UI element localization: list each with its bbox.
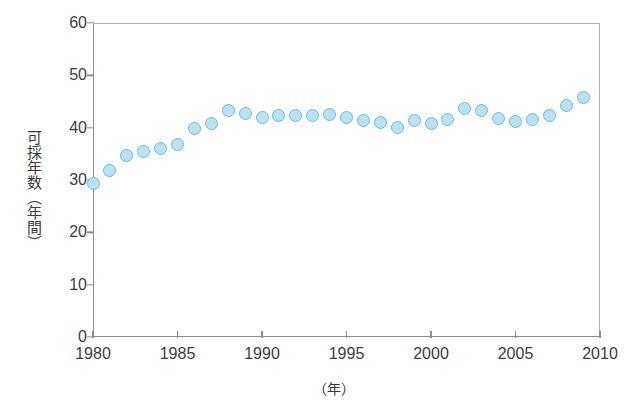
y-axis-title-text: 可採年数（年間） bbox=[27, 130, 42, 250]
x-tick-label: 2005 bbox=[486, 345, 546, 363]
x-tick-mark bbox=[599, 331, 600, 338]
y-tick-label: 50 bbox=[43, 66, 87, 84]
y-tick-mark bbox=[87, 284, 94, 285]
data-point bbox=[391, 121, 404, 134]
data-point bbox=[340, 111, 353, 124]
x-axis-title: （年） bbox=[0, 378, 641, 398]
y-tick-label: 60 bbox=[43, 14, 87, 32]
y-tick-mark bbox=[87, 127, 94, 128]
data-point bbox=[560, 99, 573, 112]
x-tick-mark bbox=[430, 331, 431, 338]
chart-figure: 可採年数（年間） 0102030405060 19801985199019952… bbox=[0, 0, 641, 417]
data-point bbox=[577, 91, 590, 104]
plot-area bbox=[93, 23, 600, 337]
y-tick-mark bbox=[87, 22, 94, 23]
data-point bbox=[408, 114, 421, 127]
x-tick-label: 1980 bbox=[63, 345, 123, 363]
data-point bbox=[171, 138, 184, 151]
x-tick-label: 1985 bbox=[148, 345, 208, 363]
data-point bbox=[87, 177, 100, 190]
data-point bbox=[509, 115, 522, 128]
y-tick-mark bbox=[87, 232, 94, 233]
x-tick-label: 1990 bbox=[232, 345, 292, 363]
data-point bbox=[272, 109, 285, 122]
x-axis-title-text: （年） bbox=[287, 381, 355, 397]
data-point bbox=[475, 104, 488, 117]
data-point bbox=[137, 145, 150, 158]
y-tick-label: 40 bbox=[43, 119, 87, 137]
x-tick-mark bbox=[177, 331, 178, 338]
x-tick-label: 2000 bbox=[401, 345, 461, 363]
data-point bbox=[239, 107, 252, 120]
y-tick-label: 0 bbox=[43, 328, 87, 346]
x-tick-mark bbox=[92, 331, 93, 338]
data-point bbox=[374, 116, 387, 129]
data-point bbox=[205, 117, 218, 130]
y-tick-label: 20 bbox=[43, 223, 87, 241]
data-point bbox=[357, 114, 370, 127]
y-tick-mark bbox=[87, 75, 94, 76]
data-point bbox=[306, 109, 319, 122]
x-tick-mark bbox=[261, 331, 262, 338]
y-tick-label: 30 bbox=[43, 171, 87, 189]
x-tick-label: 2010 bbox=[570, 345, 630, 363]
data-point bbox=[425, 117, 438, 130]
data-point bbox=[256, 111, 269, 124]
data-point bbox=[526, 113, 539, 126]
x-tick-label: 1995 bbox=[317, 345, 377, 363]
x-tick-mark bbox=[515, 331, 516, 338]
x-tick-mark bbox=[346, 331, 347, 338]
y-tick-label: 10 bbox=[43, 276, 87, 294]
data-point bbox=[543, 109, 556, 122]
